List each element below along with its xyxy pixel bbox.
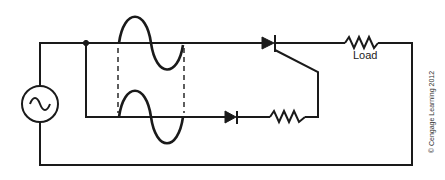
main-wires xyxy=(40,43,412,165)
copyright-text: © Cengage Learning 2012 xyxy=(428,71,435,153)
top-waveform xyxy=(118,17,184,113)
ac-source xyxy=(22,86,58,122)
sine-symbol-icon xyxy=(30,98,50,110)
load-label: Load xyxy=(353,50,377,61)
gate-resistor xyxy=(270,111,305,122)
gate-branch-wire xyxy=(86,43,226,117)
circuit-diagram xyxy=(0,0,445,180)
gate-diode xyxy=(225,111,237,124)
scr-symbol xyxy=(262,35,275,52)
load-resistor xyxy=(345,37,378,48)
